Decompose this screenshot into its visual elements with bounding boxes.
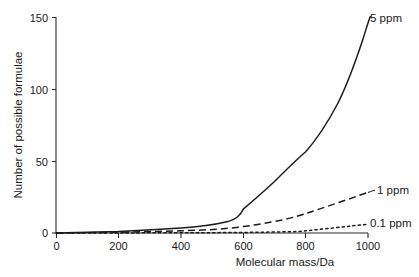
x-tick-label-0: 0	[53, 240, 59, 252]
x-axis-title: Molecular mass/Da	[236, 256, 335, 268]
y-tick-label-150: 150	[30, 12, 48, 24]
y-axis-title: Number of possible formulae	[12, 51, 24, 198]
y-tick-label-0: 0	[42, 227, 48, 239]
y-tick-label-100: 100	[30, 84, 48, 96]
series-curve-5ppm	[56, 16, 371, 233]
series-label-5ppm: 5 ppm	[370, 12, 402, 24]
series-curve-1ppm	[56, 192, 368, 233]
series-label-01ppm: 0.1 ppm	[370, 217, 412, 229]
leader-line-1ppm	[368, 190, 375, 193]
chart-figure: 150 100 50 0 0 200 400 600 800 1000 Mole…	[0, 0, 419, 277]
chart-plot-area: 150 100 50 0 0 200 400 600 800 1000 Mole…	[0, 0, 419, 277]
series-label-1ppm: 1 ppm	[377, 184, 409, 196]
x-tick-label-400: 400	[172, 240, 190, 252]
x-tick-label-800: 800	[296, 240, 314, 252]
x-tick-label-200: 200	[109, 240, 127, 252]
y-tick-label-50: 50	[36, 156, 48, 168]
x-tick-label-1000: 1000	[356, 240, 380, 252]
x-tick-label-600: 600	[234, 240, 252, 252]
